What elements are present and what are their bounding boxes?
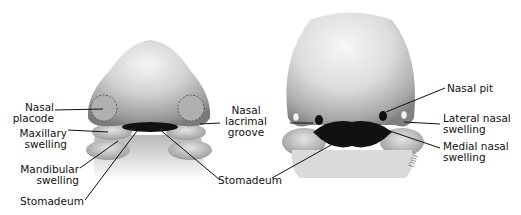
embryo-face-diagram: DBP Nasal placode Maxillary swelling Man… bbox=[0, 0, 521, 215]
label-lateral-nasal-swelling: Lateral nasal swelling bbox=[443, 113, 511, 135]
right-embryo: DBP bbox=[282, 13, 424, 179]
label-nasal-pit: Nasal pit bbox=[447, 83, 493, 94]
left-embryo bbox=[86, 40, 212, 180]
label-nasal-lacrimal-groove: Nasal lacrimal groove bbox=[222, 105, 270, 138]
label-stomadeum-left: Stomadeum bbox=[20, 196, 84, 207]
label-nasal-placode: Nasal placode bbox=[8, 102, 54, 124]
label-mandibular-swelling: Mandibular swelling bbox=[5, 164, 79, 186]
label-stomadeum-middle: Stomadeum bbox=[218, 175, 282, 186]
label-maxillary-swelling: Maxillary swelling bbox=[5, 128, 67, 150]
label-medial-nasal-swelling: Medial nasal swelling bbox=[443, 141, 509, 163]
